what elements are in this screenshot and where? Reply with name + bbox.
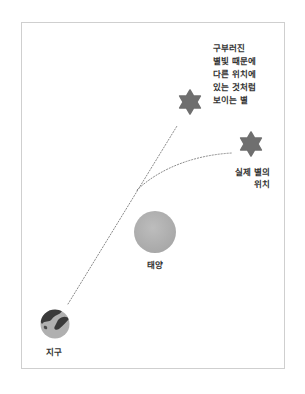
sun-label: 태양 bbox=[140, 259, 170, 272]
apparent-star-label-line: 별빛 때문에 bbox=[213, 55, 256, 68]
earth-globe-icon bbox=[40, 309, 70, 339]
apparent-star-label-line: 다른 위치에 bbox=[213, 68, 256, 81]
apparent-star-label: 구부러진 별빛 때문에 다른 위치에 있는 것처럼 보이는 별 bbox=[213, 42, 256, 107]
bent-starlight-dotted-curve bbox=[137, 153, 232, 190]
apparent-star-label-line: 있는 것처럼 bbox=[213, 81, 256, 94]
diagram-canvas bbox=[0, 0, 305, 394]
real-star-icon bbox=[241, 132, 262, 156]
apparent-star-icon bbox=[180, 90, 201, 114]
apparent-star-label-line: 보이는 별 bbox=[213, 94, 256, 107]
real-star-label: 실제 별의 위치 bbox=[220, 166, 270, 190]
apparent-star-label-line: 구부러진 bbox=[213, 42, 256, 55]
earth-label: 지구 bbox=[40, 346, 68, 359]
real-star-label-line: 실제 별의 bbox=[220, 166, 270, 178]
real-star-label-line: 위치 bbox=[220, 178, 270, 190]
sun-circle-icon bbox=[134, 211, 176, 253]
